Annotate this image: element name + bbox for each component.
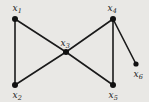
label-subscript-x5: 5 <box>114 94 118 102</box>
graph-edge-x3-x5 <box>66 52 113 85</box>
graph-node-label-x1: x1 <box>12 4 21 13</box>
graph-node-label-x4: x4 <box>107 4 116 13</box>
graph-edge-x3-x4 <box>66 19 113 52</box>
label-subscript-x4: 4 <box>113 7 117 15</box>
label-subscript-x6: 6 <box>139 73 143 81</box>
graph-node-x2 <box>12 82 18 88</box>
graph-node-x5 <box>110 82 116 88</box>
nodes-layer <box>12 16 139 88</box>
graph-edge-x1-x3 <box>15 19 66 52</box>
graph-node-label-x3: x3 <box>60 39 69 48</box>
graph-canvas <box>0 0 149 102</box>
graph-node-x3 <box>63 49 69 55</box>
label-subscript-x3: 3 <box>66 42 70 50</box>
graph-node-x4 <box>110 16 116 22</box>
edges-layer <box>15 19 136 85</box>
label-subscript-x2: 2 <box>18 94 22 102</box>
graph-figure: x1x2x3x4x5x6 <box>0 0 149 102</box>
graph-node-x1 <box>12 16 18 22</box>
graph-edge-x2-x3 <box>15 52 66 85</box>
graph-edge-x4-x6 <box>113 19 136 64</box>
graph-node-label-x5: x5 <box>108 91 117 100</box>
label-subscript-x1: 1 <box>18 7 22 15</box>
graph-node-x6 <box>133 61 138 66</box>
graph-node-label-x6: x6 <box>133 70 142 79</box>
graph-node-label-x2: x2 <box>12 91 21 100</box>
